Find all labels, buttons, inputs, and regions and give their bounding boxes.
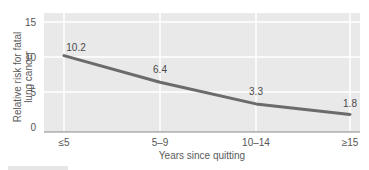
x-axis-tick-labels: ≤55–910–14≥15: [58, 137, 358, 148]
x-tick-label: 5–9: [152, 137, 169, 148]
line-chart: 051015 ≤55–910–14≥15 10.26.43.31.8: [0, 0, 369, 170]
x-tick-label: ≤5: [58, 137, 69, 148]
x-axis-title: Years since quitting: [44, 150, 360, 161]
data-label: 1.8: [343, 98, 357, 109]
plot-background: [44, 13, 360, 132]
data-label: 10.2: [66, 42, 86, 53]
data-label: 6.4: [153, 64, 167, 75]
figure-caption-fragment: [8, 166, 68, 170]
y-axis-title-line-2: lung cancer: [23, 22, 34, 132]
data-label: 3.3: [249, 86, 263, 97]
y-axis-title-line-1: Relative risk for fatal: [12, 22, 23, 132]
x-tick-label: 10–14: [242, 137, 270, 148]
x-tick-label: ≥15: [342, 137, 359, 148]
y-axis-title: Relative risk for fatal lung cancer: [12, 22, 42, 132]
